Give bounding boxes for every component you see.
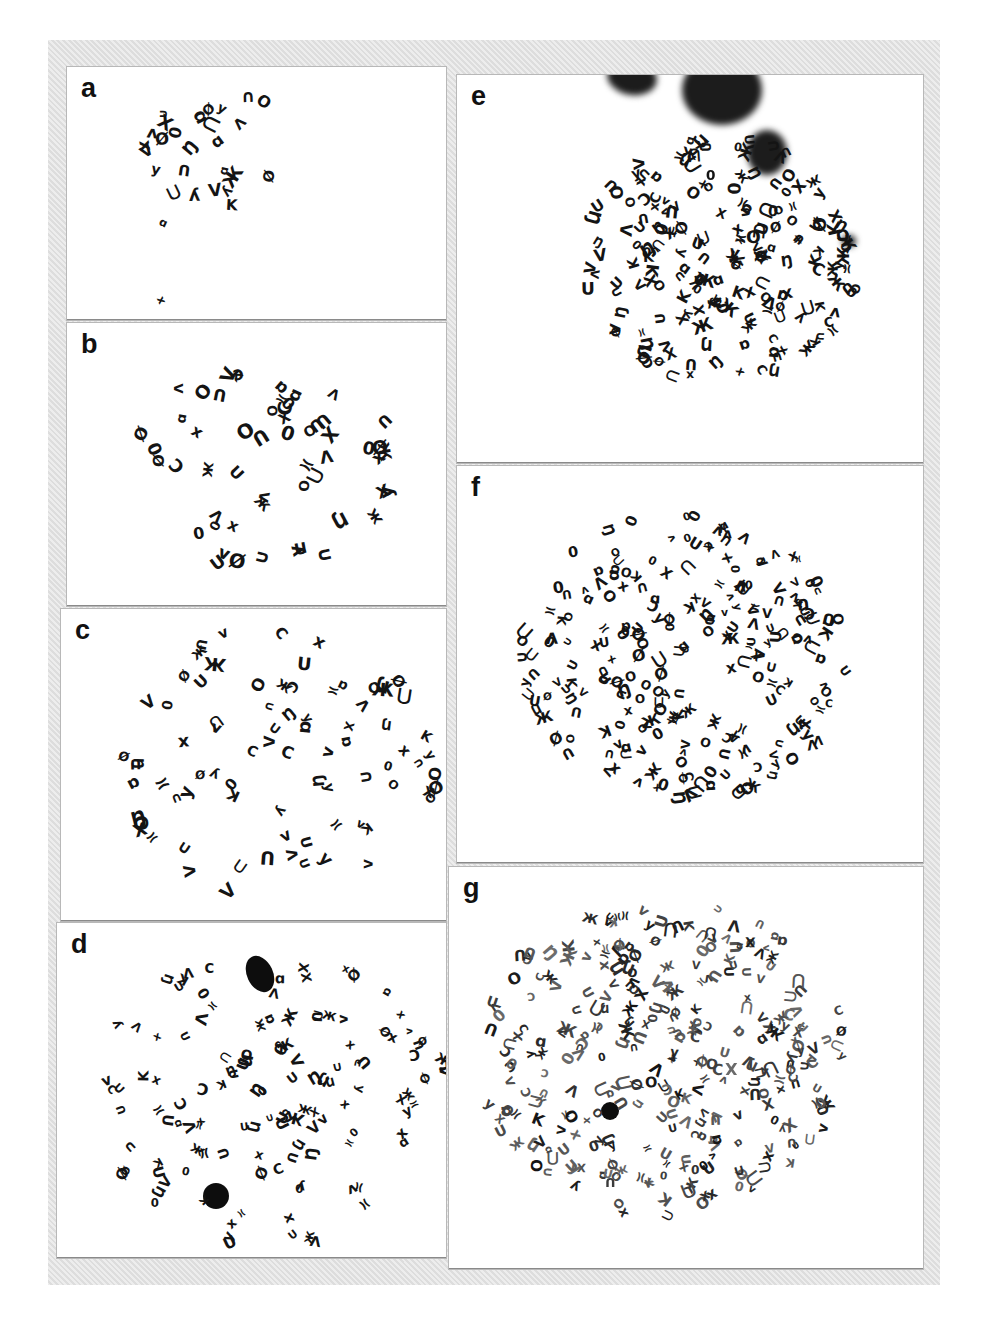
chromosome: x [606, 653, 618, 667]
chromosome: K [785, 1155, 796, 1168]
chromosome: ∩ [679, 644, 691, 654]
chromosome: C [271, 1160, 286, 1177]
chromosome: K [554, 614, 568, 626]
chromosome: ⋂ [677, 557, 696, 576]
chromosome: ɒ [157, 217, 169, 231]
chromosome: 0 [706, 167, 716, 181]
chromosome: O [190, 379, 214, 403]
chromosome: Ø [543, 691, 552, 702]
chromosome: 0 [704, 617, 717, 626]
chromosome: ᑎ [666, 1121, 677, 1134]
chromosome: U [718, 767, 734, 782]
chromosome: Ŋ [328, 508, 350, 531]
chromosome: ∩ [263, 1111, 275, 1124]
chromosome: U [637, 211, 650, 226]
chromosome: O [565, 733, 577, 743]
chromosome: X [374, 482, 392, 502]
chromosome: ʌ [816, 1122, 833, 1134]
chromosome: ʌ [278, 828, 295, 847]
chromosome: C [702, 1019, 715, 1033]
chromosome: 0 [151, 1198, 159, 1210]
chromosome: Ŋ [707, 353, 726, 372]
chromosome: 0 [597, 1051, 606, 1063]
chromosome: ʌ [760, 944, 771, 951]
chromosome: ≍ [341, 1136, 355, 1151]
chromosome: ʌ [579, 583, 590, 596]
chromosome: Λ [806, 738, 819, 753]
metaphase-spread: ɒ⋂ʎЖØ⋂VxʎOØᑎɒΛʌ0Vɒ∩ŊXʎKʎ∩Øɒx [67, 67, 446, 320]
chromosome: O [783, 213, 800, 230]
chromosome: X [493, 1112, 507, 1126]
metaphase-spread: ɒᑎŊ∩∩ʎVOKCЖK∩Cx⋂O⋂xXЖK∩ЖŊUV≍ɒ≍ɒxCɒʎxXᑎXЖ… [457, 75, 923, 463]
chromosome: C [204, 962, 214, 975]
chromosome: ≍ [196, 1146, 213, 1161]
chromosome: ⋂ [752, 274, 770, 291]
chromosome: O [635, 693, 646, 706]
chromosome: 0 [647, 553, 659, 567]
chromosome: X [341, 720, 355, 733]
chromosome: ∩ [252, 548, 274, 567]
chromosome: ʌ [721, 608, 729, 619]
chromosome: ≍ [711, 575, 728, 592]
chromosome: ᑎ [214, 1146, 230, 1161]
chromosome: 0 [647, 1013, 660, 1023]
chromosome: ⋂ [396, 688, 413, 707]
chromosome: 0 [808, 572, 828, 589]
chromosome: ᑎ [177, 163, 191, 179]
chromosome: K [722, 952, 737, 966]
chromosome: 0 [622, 513, 640, 528]
chromosome: Ж [280, 1006, 301, 1029]
chromosome: O [691, 1017, 702, 1027]
chromosome: U [286, 1228, 299, 1242]
chromosome: K [226, 197, 238, 212]
chromosome: ɒ [124, 772, 142, 792]
panel-label-a: a [81, 75, 96, 102]
chromosome: U [285, 1151, 301, 1165]
chromosome: Ж [199, 461, 214, 478]
chromosome: O [385, 777, 400, 793]
chromosome: ʌ [665, 533, 678, 545]
chromosome: Ŋ [324, 1075, 336, 1088]
chromosome: ʌ [216, 625, 231, 642]
chromosome: 0 [181, 1165, 191, 1177]
chromosome: ʎ [674, 247, 690, 259]
chromosome: O [609, 184, 628, 201]
metaphase-spread: UCx≍ŊʌʎVΛVɒЖUxOKUC≍Xʎʌ∩ʎʎŊ⋂Ж∩ᑎʌ∩OUʎ≍OCØʌ… [61, 609, 446, 921]
chromosome: O [745, 228, 761, 246]
chromosome: ʎ [352, 1085, 365, 1095]
chromosome: Ŋ [303, 1146, 320, 1161]
chromosome: K [136, 1070, 150, 1081]
panel-label-c: c [75, 617, 90, 644]
chromosome: x [774, 1084, 788, 1095]
chromosome: 0 [756, 556, 768, 565]
chromosome: ≍ [791, 596, 805, 612]
chromosome: ɒ [735, 941, 746, 950]
chromosome: K [783, 674, 796, 688]
chromosome: U [482, 1019, 500, 1038]
chromosome: ʌ [724, 591, 737, 602]
chromosome: Ж [705, 712, 723, 732]
chromosome: Ø [648, 932, 663, 947]
chromosome: Λ [260, 736, 276, 748]
chromosome: O [254, 92, 274, 113]
chromosome: O [131, 814, 151, 831]
chromosome: ⋂ [805, 1133, 816, 1146]
chromosome: K [596, 722, 612, 740]
chromosome: ᑎ [227, 462, 248, 482]
chromosome: ʎ [792, 308, 808, 325]
chromosome: O [504, 969, 524, 989]
chromosome: Ø [835, 1024, 847, 1037]
chromosome: ∩ [560, 634, 575, 648]
chromosome: x [225, 516, 241, 535]
chromosome: ∩ [261, 699, 276, 713]
chromosome: ᑎ [717, 746, 733, 760]
chromosome: ⋂ [664, 368, 680, 383]
chromosome: O [528, 1159, 544, 1173]
chromosome: ≍ [632, 1169, 649, 1184]
chromosome: ɒ [380, 985, 395, 998]
chromosome: X [753, 249, 769, 262]
chromosome: Ж [303, 1229, 316, 1244]
chromosome: Ŋ [180, 138, 202, 159]
chromosome: Λ [747, 616, 761, 633]
chromosome: U [192, 672, 212, 692]
